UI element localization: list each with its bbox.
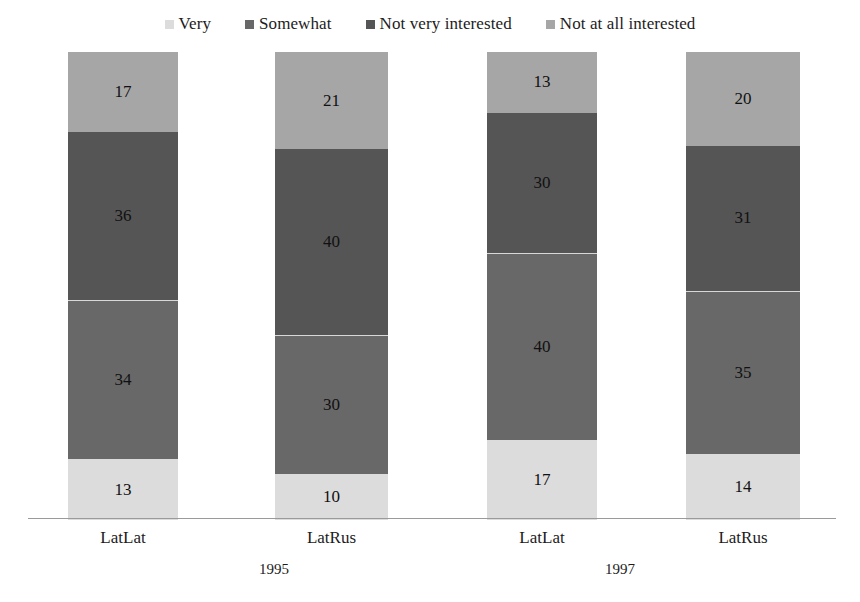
- category-label-2: LatLat: [487, 528, 597, 548]
- bar-segment-value: 30: [534, 174, 551, 192]
- bar-segment-not-at-all-interested[interactable]: 21: [275, 52, 388, 149]
- plot-area: 13343617103040211740301314353120: [0, 50, 860, 520]
- bar-segment-very[interactable]: 10: [275, 474, 388, 520]
- category-label-1: LatRus: [275, 528, 388, 548]
- legend-swatch-icon: [165, 20, 174, 29]
- bar-segment-somewhat[interactable]: 40: [487, 253, 597, 440]
- chart-legend: VerySomewhatNot very interestedNot at al…: [0, 10, 860, 36]
- bar-1995-latlat[interactable]: 13343617: [68, 52, 178, 520]
- legend-swatch-icon: [366, 20, 375, 29]
- bar-segment-value: 36: [115, 207, 132, 225]
- bar-segment-somewhat[interactable]: 30: [275, 335, 388, 474]
- bar-segment-value: 31: [735, 209, 752, 227]
- bar-1995-latrus[interactable]: 10304021: [275, 52, 388, 520]
- bar-segment-not-at-all-interested[interactable]: 17: [68, 52, 178, 132]
- legend-item-label: Not very interested: [380, 14, 512, 33]
- category-label-0: LatLat: [68, 528, 178, 548]
- bar-segment-value: 14: [735, 478, 752, 496]
- bar-segment-not-at-all-interested[interactable]: 20: [686, 52, 800, 146]
- bar-segment-very[interactable]: 14: [686, 454, 800, 520]
- bar-segment-value: 40: [323, 233, 340, 251]
- bar-segment-value: 17: [534, 471, 551, 489]
- bar-segment-value: 13: [534, 73, 551, 91]
- legend-item-not-at-all-interested[interactable]: Not at all interested: [546, 14, 696, 33]
- bar-segment-very[interactable]: 17: [487, 440, 597, 520]
- bar-segment-somewhat[interactable]: 35: [686, 291, 800, 455]
- bar-segment-value: 17: [115, 83, 132, 101]
- legend-item-label: Very: [179, 14, 212, 33]
- bar-1997-latrus[interactable]: 14353120: [686, 52, 800, 520]
- legend-item-label: Somewhat: [259, 14, 332, 33]
- legend-swatch-icon: [546, 20, 555, 29]
- bar-segment-not-very-interested[interactable]: 30: [487, 113, 597, 253]
- bar-segment-value: 35: [735, 364, 752, 382]
- bar-segment-value: 30: [323, 396, 340, 414]
- bar-segment-not-at-all-interested[interactable]: 13: [487, 52, 597, 113]
- bar-segment-somewhat[interactable]: 34: [68, 300, 178, 459]
- bar-1997-latlat[interactable]: 17403013: [487, 52, 597, 520]
- bar-segment-value: 10: [323, 488, 340, 506]
- bar-segment-value: 34: [115, 371, 132, 389]
- stacked-bar-chart: VerySomewhatNot very interestedNot at al…: [0, 0, 860, 602]
- group-label-1995: 1995: [214, 560, 334, 578]
- bar-segment-not-very-interested[interactable]: 40: [275, 149, 388, 334]
- legend-item-not-very-interested[interactable]: Not very interested: [366, 14, 512, 33]
- legend-item-label: Not at all interested: [560, 14, 696, 33]
- category-label-3: LatRus: [686, 528, 800, 548]
- legend-item-very[interactable]: Very: [165, 14, 212, 33]
- bar-segment-very[interactable]: 13: [68, 459, 178, 520]
- legend-item-somewhat[interactable]: Somewhat: [245, 14, 332, 33]
- bar-segment-value: 20: [735, 90, 752, 108]
- x-axis-baseline: [28, 518, 836, 519]
- legend-swatch-icon: [245, 20, 254, 29]
- bar-segment-value: 13: [115, 481, 132, 499]
- bar-segment-not-very-interested[interactable]: 31: [686, 146, 800, 291]
- bar-segment-not-very-interested[interactable]: 36: [68, 132, 178, 300]
- group-label-1997: 1997: [560, 560, 680, 578]
- bar-segment-value: 40: [534, 338, 551, 356]
- bar-segment-value: 21: [323, 92, 340, 110]
